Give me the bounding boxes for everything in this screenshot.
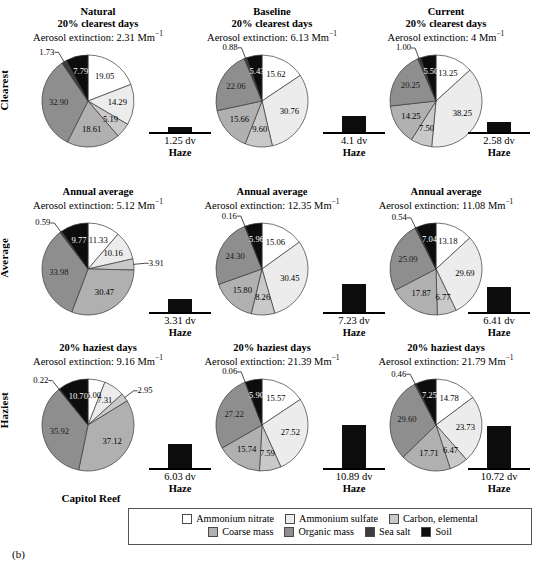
legend-item-label: Ammonium nitrate — [196, 513, 274, 526]
slice-value-label: 7.31 — [97, 395, 112, 405]
haze-bar — [342, 425, 366, 468]
legend-item-ammonium-nitrate[interactable]: Ammonium nitrate — [182, 513, 274, 526]
panel-heading: Current20% clearest daysAerosol extincti… — [370, 6, 522, 43]
slice-value-label: 7.25 — [422, 390, 437, 400]
extinction-exponent: −1 — [155, 353, 163, 362]
panel-heading: Annual averageAerosol extinction: 5.12 M… — [22, 186, 174, 211]
panel-heading: 20% haziest daysAerosol extinction: 9.16… — [22, 342, 174, 367]
legend-item-soil[interactable]: Soil — [421, 526, 451, 539]
legend-item-coarse-mass[interactable]: Coarse mass — [208, 526, 273, 539]
label-leader-line — [237, 372, 245, 383]
slice-value-label: 6.47 — [443, 445, 459, 455]
panel-extinction: Aerosol extinction: 6.13 Mm−1 — [196, 30, 348, 43]
slice-value-label: 27.52 — [281, 427, 300, 437]
haze-bar — [168, 299, 192, 312]
panel-extinction: Aerosol extinction: 5.12 Mm−1 — [22, 198, 174, 211]
slice-value-label: 22.06 — [226, 81, 246, 91]
panel-subtitle: Annual average — [196, 186, 348, 198]
slice-value-label: 30.76 — [280, 106, 300, 116]
legend-item-label: Soil — [435, 526, 451, 539]
haze-bar-plot — [462, 258, 536, 314]
panel-subtitle: Annual average — [370, 186, 522, 198]
extinction-exponent: −1 — [155, 29, 163, 38]
slice-value-label: 5.19 — [103, 114, 118, 124]
slice-value-label: 14.78 — [440, 393, 459, 403]
slice-value-label: 30.45 — [280, 273, 299, 283]
panel-subtitle: 20% clearest days — [196, 18, 348, 30]
legend-item-organic-mass[interactable]: Organic mass — [284, 526, 354, 539]
legend-swatch-icon — [182, 514, 192, 524]
haze-value-label: 6.41 dv — [462, 315, 536, 327]
slice-value-label: 5.90 — [249, 390, 264, 400]
slice-value-label: 13.25 — [438, 68, 457, 78]
slice-value-label: 8.26 — [255, 292, 271, 302]
slice-value-label: 24.30 — [226, 251, 245, 261]
slice-value-label: 35.92 — [50, 426, 69, 436]
panel-extinction: Aerosol extinction: 9.16 Mm−1 — [22, 354, 174, 367]
legend-item-ammonium-sulfate[interactable]: Ammonium sulfate — [285, 513, 378, 526]
slice-value-label: 0.46 — [391, 369, 407, 379]
panel-extinction: Aerosol extinction: 12.35 Mm−1 — [196, 198, 348, 211]
slice-value-label: 6.77 — [435, 292, 451, 302]
panel-extinction: Aerosol extinction: 21.79 Mm−1 — [370, 354, 522, 367]
haze-word-label: Haze — [462, 147, 536, 159]
legend-item-label: Sea salt — [379, 526, 410, 539]
haze-bar-plot — [462, 414, 536, 470]
label-leader-line — [50, 223, 61, 232]
panel-heading: Annual averageAerosol extinction: 11.08 … — [370, 186, 522, 211]
label-leader-line — [238, 48, 246, 59]
extinction-exponent: −1 — [332, 197, 340, 206]
row-label-haziest: Haziest — [0, 392, 24, 428]
extinction-exponent: −1 — [155, 197, 163, 206]
slice-value-label: 5.43 — [249, 66, 264, 76]
legend-swatch-icon — [208, 527, 218, 537]
slice-value-label: 29.60 — [397, 414, 416, 424]
slice-value-label: 25.09 — [398, 254, 417, 264]
slice-value-label: 14.25 — [401, 110, 420, 120]
panel-extinction: Aerosol extinction: 11.08 Mm−1 — [370, 198, 522, 211]
panel-subtitle: 20% haziest days — [196, 342, 348, 354]
panel-subtitle: Annual average — [22, 186, 174, 198]
slice-value-label: 7.59 — [260, 448, 275, 458]
legend-swatch-icon — [285, 514, 295, 524]
slice-value-label: 14.29 — [108, 97, 127, 107]
extinction-exponent: −1 — [332, 353, 340, 362]
legend-row: Ammonium nitrateAmmonium sulfateCarbon, … — [137, 513, 523, 526]
legend: Ammonium nitrateAmmonium sulfateCarbon, … — [128, 508, 532, 545]
slice-value-label: 7.04 — [422, 234, 438, 244]
haze-bar — [487, 426, 511, 468]
slice-value-label: 15.74 — [237, 444, 257, 454]
slice-value-label: 0.22 — [33, 375, 48, 385]
slice-value-label: 37.12 — [102, 436, 121, 446]
extinction-exponent: −1 — [329, 29, 337, 38]
slice-value-label: 0.88 — [222, 42, 237, 52]
row-label-clearest: Clearest — [0, 70, 24, 111]
haze-bar-plot — [462, 78, 536, 134]
legend-item-sea-salt[interactable]: Sea salt — [365, 526, 410, 539]
legend-row: Coarse massOrganic massSea saltSoil — [137, 526, 523, 539]
slice-value-label: 10.16 — [104, 248, 124, 258]
slice-value-label: 19.05 — [95, 70, 114, 80]
slice-value-label: 13.18 — [438, 236, 457, 246]
slice-value-label: 15.06 — [266, 237, 286, 247]
slice-value-label: 0.06 — [222, 366, 238, 376]
label-leader-line — [407, 218, 416, 228]
panel-heading: Baseline20% clearest daysAerosol extinct… — [196, 6, 348, 43]
slice-value-label: 9.77 — [72, 235, 88, 245]
legend-swatch-icon — [389, 514, 399, 524]
haze-indicator: 2.58 dvHaze — [462, 78, 536, 159]
extinction-exponent: −1 — [496, 29, 504, 38]
haze-bar — [342, 116, 366, 132]
haze-bar — [487, 122, 511, 132]
panel-heading: 20% haziest daysAerosol extinction: 21.3… — [196, 342, 348, 367]
haze-indicator: 10.72 dvHaze — [462, 414, 536, 495]
legend-swatch-icon — [365, 527, 375, 537]
figure-tag: (b) — [12, 548, 25, 560]
panel-title: Baseline — [196, 6, 348, 18]
figure-panel-grid: ClearestAverageHaziestNatural20% cleares… — [0, 0, 539, 570]
slice-value-label: 7.50 — [419, 123, 434, 133]
legend-item-carbon-elemental[interactable]: Carbon, elemental — [389, 513, 478, 526]
panel-title: Current — [370, 6, 522, 18]
label-leader-line — [406, 374, 415, 384]
legend-item-label: Organic mass — [298, 526, 354, 539]
